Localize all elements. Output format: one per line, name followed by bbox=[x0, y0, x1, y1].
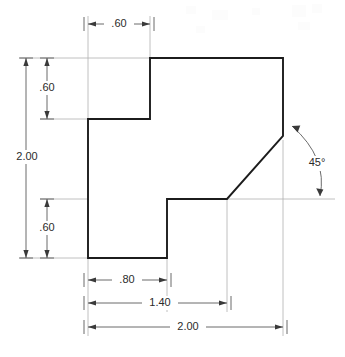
watermark-speckle bbox=[186, 4, 322, 33]
dimension-chamfer-angle-label: 45° bbox=[309, 156, 326, 168]
dimension-bottom-mid-width: 1.40 bbox=[84, 296, 231, 310]
dimension-bottom-notch-width-label: .80 bbox=[119, 273, 134, 285]
technical-drawing-canvas: .60 2.00 .60 bbox=[0, 0, 345, 357]
part-outline-profile bbox=[88, 58, 283, 258]
dimension-bottom-mid-width-label: 1.40 bbox=[149, 296, 170, 308]
dimension-left-lower-height-label: .60 bbox=[39, 221, 54, 233]
dimension-bottom-total-width-label: 2.00 bbox=[177, 320, 198, 332]
dimension-top-width: .60 bbox=[84, 17, 154, 31]
dimension-top-width-label: .60 bbox=[111, 17, 126, 29]
dimension-chamfer-angle: 45° bbox=[292, 126, 332, 196]
dimension-bottom-notch-width: .80 bbox=[84, 273, 171, 287]
dimension-bottom-total-width: 2.00 bbox=[84, 320, 287, 334]
dimension-left-upper-height: .60 bbox=[33, 58, 61, 119]
dimension-left-total-height-label: 2.00 bbox=[16, 150, 37, 162]
drawing-svg: .60 2.00 .60 bbox=[0, 0, 345, 357]
dimension-left-lower-height: .60 bbox=[33, 199, 61, 258]
dimension-left-upper-height-label: .60 bbox=[39, 81, 54, 93]
